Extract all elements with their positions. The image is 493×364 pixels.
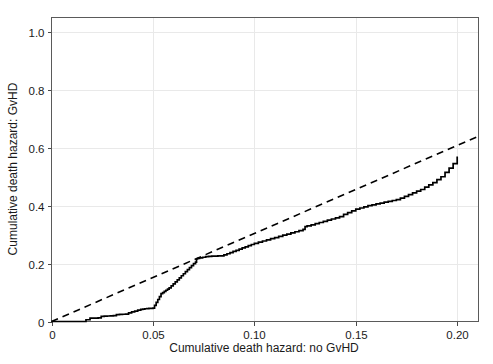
x-tick-label-4: 0.20 <box>446 329 468 341</box>
y-tick-label-3: 0.6 <box>29 143 45 155</box>
x-axis-title: Cumulative death hazard: no GvHD <box>169 341 359 355</box>
y-tick-label-5: 1.0 <box>29 27 45 39</box>
plot-background <box>0 0 493 364</box>
chart-figure: 00.050.100.150.20 00.20.40.60.81.0 Cumul… <box>0 0 493 364</box>
cumulative-hazard-plot: 00.050.100.150.20 00.20.40.60.81.0 Cumul… <box>0 0 493 364</box>
y-tick-label-1: 0.2 <box>29 259 45 271</box>
x-tick-label-2: 0.10 <box>243 329 265 341</box>
x-tick-label-1: 0.05 <box>142 329 164 341</box>
y-tick-label-0: 0 <box>38 317 44 329</box>
y-tick-label-4: 0.8 <box>29 85 45 97</box>
x-tick-label-0: 0 <box>49 329 55 341</box>
y-axis-title: Cumulative death hazard: GvHD <box>6 82 20 255</box>
y-tick-label-2: 0.4 <box>29 201 46 213</box>
x-tick-label-3: 0.15 <box>345 329 367 341</box>
